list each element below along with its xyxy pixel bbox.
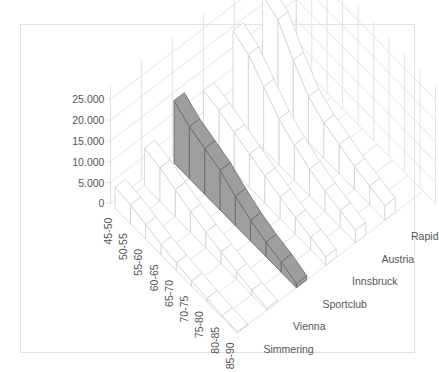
x-tick-label: 60-65 [148, 264, 160, 291]
x-tick-label: 65-70 [163, 280, 175, 307]
series-label: Simmering [264, 343, 314, 355]
x-tick-label: 75-80 [193, 311, 205, 338]
y-tick-label: 0 [99, 197, 105, 209]
x-tick-label: 55-60 [132, 249, 144, 276]
x-tick-label: 85-90 [224, 342, 236, 369]
y-tick-label: 10.000 [72, 156, 104, 168]
series-label: Innsbruck [352, 275, 398, 287]
series-label: Rapid [411, 230, 439, 242]
y-tick-label: 15.000 [72, 135, 104, 147]
y-tick-label: 5.000 [78, 177, 104, 189]
y-tick-label: 20.000 [72, 114, 104, 126]
series-label: Sportclub [323, 298, 368, 310]
series-label: Austria [382, 253, 415, 265]
3d-line-chart: 05.00010.00015.00020.00025.000 45-5050-5… [0, 0, 439, 372]
x-tick-label: 70-75 [178, 295, 190, 322]
y-tick-label: 25.000 [72, 93, 104, 105]
x-tick-label: 45-50 [102, 217, 114, 244]
x-tick-label: 50-55 [117, 233, 129, 260]
y-axis: 05.00010.00015.00020.00025.000 [72, 93, 110, 209]
series-label: Vienna [293, 320, 326, 332]
x-tick-label: 80-85 [209, 327, 221, 354]
